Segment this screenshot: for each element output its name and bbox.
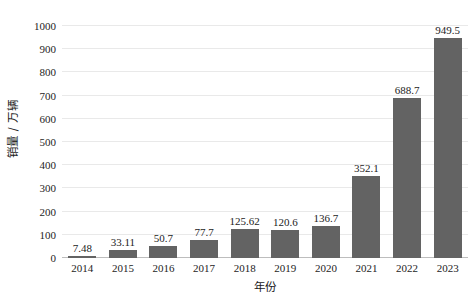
- bar[interactable]: [109, 250, 137, 258]
- bar-value-label: 136.7: [314, 212, 339, 224]
- bar-value-label: 949.5: [435, 24, 460, 36]
- bar[interactable]: [231, 229, 259, 258]
- bar-slot: 7.48: [62, 26, 103, 258]
- x-axis-tick-label: 2017: [193, 261, 215, 275]
- bar[interactable]: [312, 226, 340, 258]
- x-axis-tick-label: 2016: [153, 261, 175, 275]
- bar-slot: 33.11: [103, 26, 144, 258]
- bar[interactable]: [393, 98, 421, 258]
- x-axis-tick-label: 2015: [112, 261, 134, 275]
- y-axis-tick-label: 300: [10, 183, 56, 194]
- bar-chart: 销量 / 万辆 01002003004005006007008009001000…: [0, 0, 475, 305]
- x-axis-tick-label: 2021: [356, 261, 378, 275]
- y-axis-tick-label: 900: [10, 44, 56, 55]
- y-axis-tick-label: 1000: [10, 21, 56, 32]
- bar[interactable]: [271, 230, 299, 258]
- y-axis-tick-label: 400: [10, 160, 56, 171]
- x-axis-title: 年份: [62, 278, 468, 294]
- bar[interactable]: [434, 38, 462, 258]
- bar-slot: 949.5: [427, 26, 468, 258]
- bar-value-label: 7.48: [73, 242, 92, 254]
- x-axis-tick-labels: 2014201520162017201820192020202120222023: [62, 261, 468, 277]
- bar-value-label: 33.11: [111, 236, 135, 248]
- bar-slot: 120.6: [265, 26, 306, 258]
- bar[interactable]: [190, 240, 218, 258]
- bar-slot: 50.7: [143, 26, 184, 258]
- bar[interactable]: [352, 176, 380, 258]
- x-axis-tick-label: 2019: [274, 261, 296, 275]
- y-axis-tick-label: 600: [10, 113, 56, 124]
- y-axis-tick-label: 0: [10, 253, 56, 264]
- bar-value-label: 688.7: [395, 84, 420, 96]
- bar-slot: 77.7: [184, 26, 225, 258]
- x-axis-tick-label: 2022: [396, 261, 418, 275]
- bar-slot: 688.7: [387, 26, 428, 258]
- bar-series: 7.4833.1150.777.7125.62120.6136.7352.168…: [62, 26, 468, 258]
- x-axis-tick-label: 2020: [315, 261, 337, 275]
- y-axis-tick-label: 500: [10, 137, 56, 148]
- x-axis-tick-label: 2018: [234, 261, 256, 275]
- bar-value-label: 50.7: [154, 232, 173, 244]
- y-axis-tick-label: 100: [10, 229, 56, 240]
- y-axis-tick-label: 700: [10, 90, 56, 101]
- bar[interactable]: [68, 256, 96, 258]
- y-axis-tick-labels: 01002003004005006007008009001000: [8, 26, 56, 258]
- bar-slot: 136.7: [306, 26, 347, 258]
- bar-slot: 125.62: [224, 26, 265, 258]
- bar-value-label: 120.6: [273, 216, 298, 228]
- bar-value-label: 352.1: [354, 162, 379, 174]
- x-axis-tick-label: 2023: [437, 261, 459, 275]
- y-axis-tick-label: 800: [10, 67, 56, 78]
- y-axis-tick-label: 200: [10, 206, 56, 217]
- bar[interactable]: [149, 246, 177, 258]
- bar-value-label: 77.7: [194, 226, 213, 238]
- bar-slot: 352.1: [346, 26, 387, 258]
- bar-value-label: 125.62: [230, 215, 260, 227]
- x-axis-tick-label: 2014: [71, 261, 93, 275]
